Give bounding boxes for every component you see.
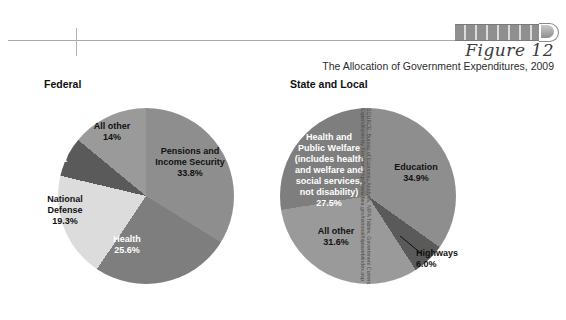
slice-label-health: Health 25.6% xyxy=(94,234,160,256)
highways-leader-line xyxy=(398,234,434,258)
source-note: SOURCE: Bureau of Economic Analysis, NIP… xyxy=(359,108,372,308)
panel-federal: Federal Pensions and Income Security 33.… xyxy=(22,78,252,294)
panel-title-federal: Federal xyxy=(44,78,252,90)
figure-banner-ornament xyxy=(455,24,558,39)
header-tick-mark xyxy=(76,28,77,56)
banner-cap-fill xyxy=(541,25,554,38)
slice-label-all-other-federal: All other 14% xyxy=(74,121,150,143)
panel-title-state-and-local: State and Local xyxy=(290,78,508,90)
figure-number: Figure 12 xyxy=(460,40,554,60)
slice-label-education: Education 34.9% xyxy=(374,162,458,184)
figure-page: Figure 12 The Allocation of Government E… xyxy=(0,0,566,320)
pie-chart-federal: Pensions and Income Security 33.8% Healt… xyxy=(22,94,252,294)
banner-striped-bar xyxy=(455,24,547,41)
slice-label-national-defense: National Defense 19.3% xyxy=(28,194,102,227)
figure-subtitle: The Allocation of Government Expenditure… xyxy=(170,60,554,72)
slice-label-interest: Interest 7.3% xyxy=(18,154,84,176)
slice-label-pensions-income-security: Pensions and Income Security 33.8% xyxy=(134,146,246,179)
panel-state-and-local: State and Local Education 34.9% Highways… xyxy=(268,78,508,304)
pie-chart-state-and-local: Education 34.9% Highways 6.0% All other … xyxy=(268,94,508,304)
